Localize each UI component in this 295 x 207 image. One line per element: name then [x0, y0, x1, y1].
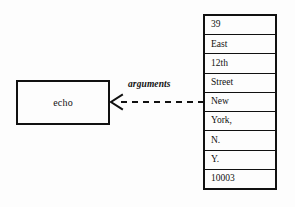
list-item: 12th [205, 54, 275, 73]
echo-process-box[interactable]: echo [16, 80, 110, 125]
list-item: York, [205, 112, 275, 131]
dependency-arrowhead-icon [111, 95, 122, 109]
arguments-dependency-arrow [104, 92, 208, 112]
list-item: N. [205, 131, 275, 150]
list-item: Street [205, 74, 275, 93]
argument-list-table: 39 East 12th Street New York, N. Y. 1000… [203, 14, 277, 190]
list-item: Y. [205, 151, 275, 170]
list-item: 39 [205, 16, 275, 35]
list-item: 10003 [205, 170, 275, 188]
diagram-canvas: echo arguments 39 East 12th Street New Y… [0, 0, 295, 207]
dependency-label: arguments [128, 79, 171, 89]
list-item: East [205, 35, 275, 54]
echo-process-label: echo [53, 97, 73, 108]
list-item: New [205, 93, 275, 112]
